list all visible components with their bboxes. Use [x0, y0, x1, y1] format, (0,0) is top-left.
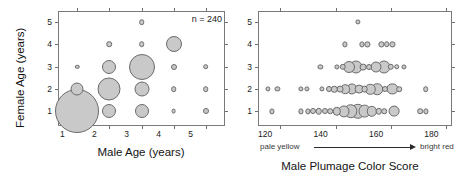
y-tick-right [225, 44, 228, 45]
x-tick-label: 5 [176, 130, 206, 139]
data-bubble [394, 64, 400, 70]
y-tick [55, 89, 58, 90]
x-tick-label: 160 [361, 130, 391, 139]
sample-size-annotation: n = 240 [192, 14, 222, 24]
data-bubble [336, 86, 343, 93]
x-tick-label: 140 [306, 130, 336, 139]
x-tick-top [391, 8, 392, 11]
x-tick-top [109, 8, 110, 11]
x-tick-top [446, 8, 447, 11]
x-tick-top [206, 8, 207, 11]
y-tick [255, 44, 258, 45]
data-bubble [98, 78, 121, 101]
data-bubble [102, 104, 116, 118]
y-tick [255, 89, 258, 90]
data-bubble [171, 64, 177, 70]
y-axis-title-left: Female Age (years) [14, 28, 26, 128]
y-tick-label: 3 [238, 62, 252, 71]
data-bubble [135, 104, 149, 118]
data-bubble [107, 42, 113, 48]
y-tick [255, 111, 258, 112]
data-bubble [203, 108, 209, 114]
y-tick-right [452, 67, 455, 68]
y-tick-label: 2 [238, 85, 252, 94]
y-tick [55, 44, 58, 45]
x-tick [391, 126, 392, 129]
data-bubble [166, 36, 182, 52]
data-bubble [203, 64, 209, 70]
x-tick-label: 4 [144, 130, 174, 139]
y-tick [55, 67, 58, 68]
x-tick-label: 180 [416, 130, 446, 139]
x-tick-top [280, 8, 281, 11]
x-tick [109, 126, 110, 129]
x-tick-top [336, 8, 337, 11]
data-bubble [381, 109, 387, 115]
x-tick [280, 126, 281, 129]
data-bubble [139, 42, 145, 48]
gradient-label-pale-yellow: pale yellow [260, 142, 300, 151]
figure-root: 1234512345 n = 240 Male Age (years) Fema… [0, 0, 465, 184]
data-bubble [366, 64, 372, 70]
y-tick-right [225, 67, 228, 68]
data-bubble [139, 19, 145, 25]
data-bubble [71, 83, 84, 96]
x-tick-top [174, 8, 175, 11]
y-tick [255, 67, 258, 68]
data-bubble [55, 89, 99, 133]
panel-male-female-age: 1234512345 n = 240 Male Age (years) Fema… [0, 0, 232, 184]
y-tick [55, 22, 58, 23]
y-tick-label: 1 [238, 107, 252, 116]
x-tick [174, 126, 175, 129]
y-tick-right [225, 111, 228, 112]
data-bubble [384, 42, 390, 48]
x-tick-top [142, 8, 143, 11]
y-tick-label: 4 [238, 40, 252, 49]
data-bubble [310, 108, 316, 114]
data-bubble [326, 86, 332, 92]
gradient-arrow-head [410, 144, 416, 150]
y-tick-label: 1 [38, 107, 52, 116]
data-bubble [361, 86, 368, 93]
y-tick-right [452, 89, 455, 90]
panel-plumage-color: 12014016018012345 pale yellow bright red… [232, 0, 465, 184]
data-bubble [102, 60, 116, 74]
gradient-label-bright-red: bright red [420, 142, 454, 151]
y-tick-label: 5 [38, 18, 52, 27]
data-bubble [171, 86, 177, 92]
x-tick [446, 126, 447, 129]
y-tick [255, 22, 258, 23]
data-bubble [423, 86, 429, 92]
y-tick-label: 3 [38, 62, 52, 71]
x-tick-top [77, 8, 78, 11]
y-tick-label: 5 [238, 18, 252, 27]
data-bubble [129, 54, 155, 80]
data-bubble [171, 109, 176, 114]
x-tick [336, 126, 337, 129]
data-bubble [327, 109, 333, 115]
x-tick-label: 3 [112, 130, 142, 139]
y-tick-right [225, 89, 228, 90]
y-tick-label: 4 [38, 40, 52, 49]
y-tick-right [452, 44, 455, 45]
data-bubble [203, 86, 209, 92]
x-tick [206, 126, 207, 129]
x-axis-title-right: Male Plumage Color Score [281, 160, 418, 172]
data-bubble [382, 86, 388, 92]
y-tick-label: 2 [38, 85, 52, 94]
x-axis-title-left: Male Age (years) [98, 146, 185, 158]
y-tick-right [452, 22, 455, 23]
y-tick-right [225, 22, 228, 23]
data-bubble [134, 82, 149, 97]
y-tick-right [452, 111, 455, 112]
data-bubble [397, 86, 403, 92]
x-tick-label: 120 [250, 130, 280, 139]
data-bubble [370, 61, 381, 72]
x-tick [142, 126, 143, 129]
gradient-arrow-line [314, 147, 410, 148]
data-bubble [388, 106, 399, 117]
